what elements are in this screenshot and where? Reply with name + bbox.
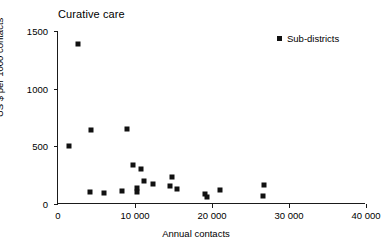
- x-tick-label: 20 000: [197, 210, 226, 221]
- data-point: [66, 144, 71, 149]
- x-tick-label: 10 000: [120, 210, 149, 221]
- x-axis-label: Annual contacts: [0, 228, 392, 239]
- y-tick-label: 500: [32, 141, 48, 152]
- data-point: [89, 128, 94, 133]
- data-point: [217, 188, 222, 193]
- chart-title: Curative care: [58, 8, 125, 20]
- data-point: [175, 187, 180, 192]
- x-tick-label: 30 000: [274, 210, 303, 221]
- data-point: [151, 182, 156, 187]
- plot-area: [58, 31, 365, 203]
- y-tick-mark: [54, 204, 58, 205]
- plot-frame: 050010001500 010 00020 00030 00040 000: [57, 31, 365, 204]
- y-tick-label: 1000: [27, 83, 48, 94]
- scatter-chart-figure: Curative care US $ per 1000 contacts 050…: [0, 0, 392, 248]
- x-tick-mark: [212, 204, 213, 208]
- legend-marker-sub-districts: [277, 36, 282, 41]
- x-tick-mark: [366, 204, 367, 208]
- y-tick-label: 0: [43, 199, 48, 210]
- data-point: [130, 162, 135, 167]
- x-tick-label: 0: [55, 210, 60, 221]
- x-tick-mark: [135, 204, 136, 208]
- data-point: [167, 184, 172, 189]
- data-point: [261, 182, 266, 187]
- data-point: [142, 178, 147, 183]
- chart-legend: Sub-districts: [277, 33, 339, 44]
- data-point: [260, 193, 265, 198]
- data-point: [119, 189, 124, 194]
- x-tick-label: 40 000: [351, 210, 380, 221]
- data-point: [139, 167, 144, 172]
- x-tick-mark: [289, 204, 290, 208]
- data-point: [125, 127, 130, 132]
- data-point: [134, 190, 139, 195]
- data-point: [169, 174, 174, 179]
- data-point: [204, 195, 209, 200]
- y-axis-label: US $ per 1000 contacts: [0, 18, 5, 117]
- data-point: [102, 191, 107, 196]
- y-tick-label: 1500: [27, 26, 48, 37]
- data-point: [76, 41, 81, 46]
- legend-label-sub-districts: Sub-districts: [287, 33, 339, 44]
- data-point: [88, 190, 93, 195]
